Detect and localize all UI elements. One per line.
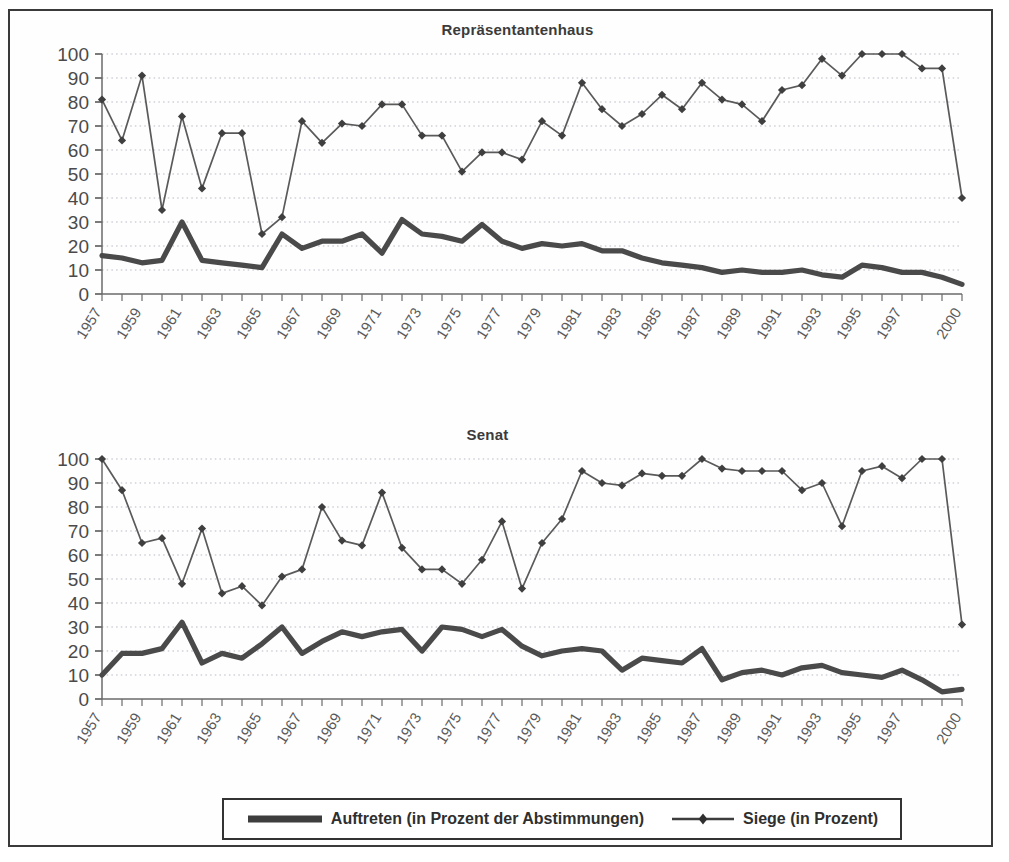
- x-axis-tick-label: 1991: [752, 710, 784, 747]
- x-axis-tick-label: 1967: [272, 710, 304, 747]
- x-axis-tick-label: 1989: [712, 710, 744, 747]
- x-axis-tick-label: 1965: [232, 710, 264, 747]
- legend-thick-line-icon: [246, 812, 324, 826]
- series-line-auftreten: [102, 220, 962, 285]
- chart-title-senate: Senat: [0, 426, 995, 443]
- y-axis-tick-label: 100: [57, 449, 89, 470]
- x-axis-tick-label: 1973: [392, 305, 424, 342]
- series-marker-siege: [358, 541, 366, 549]
- chart-house: Repräsentantenhaus 010203040506070809010…: [10, 21, 995, 411]
- series-marker-siege: [338, 537, 346, 545]
- y-axis-tick-label: 70: [68, 521, 89, 542]
- x-axis-tick-label: 1973: [392, 710, 424, 747]
- series-marker-siege: [858, 467, 866, 475]
- x-axis-tick-label: 1965: [232, 305, 264, 342]
- series-marker-siege: [438, 132, 446, 140]
- x-axis-tick-label: 1975: [432, 710, 464, 747]
- series-marker-siege: [178, 112, 186, 120]
- series-marker-siege: [138, 539, 146, 547]
- y-axis-tick-label: 100: [57, 44, 89, 65]
- series-marker-siege: [238, 129, 246, 137]
- plot-svg-senate: 0102030405060708090100195719591961196319…: [10, 447, 995, 807]
- plot-area-house: 0102030405060708090100195719591961196319…: [10, 42, 995, 292]
- series-marker-siege: [778, 86, 786, 94]
- x-axis-tick-label: 1995: [832, 710, 864, 747]
- chart-title-house: Repräsentantenhaus: [40, 21, 995, 38]
- y-axis-tick-label: 0: [78, 689, 89, 710]
- series-marker-siege: [418, 132, 426, 140]
- series-marker-siege: [178, 580, 186, 588]
- x-axis-tick-label: 2000: [932, 710, 964, 747]
- x-axis-tick-label: 1997: [872, 710, 904, 747]
- legend-diamond-line-icon: [670, 812, 736, 826]
- series-marker-siege: [938, 455, 946, 463]
- y-axis-tick-label: 80: [68, 497, 89, 518]
- series-marker-siege: [718, 465, 726, 473]
- x-axis-tick-label: 1985: [632, 710, 664, 747]
- x-axis-tick-label: 1977: [472, 305, 504, 342]
- series-marker-siege: [958, 194, 966, 202]
- series-marker-siege: [498, 517, 506, 525]
- x-axis-tick-label: 1971: [352, 710, 384, 747]
- x-axis-tick-label: 1981: [552, 710, 584, 747]
- x-axis-tick-label: 1997: [872, 305, 904, 342]
- series-line-siege: [102, 459, 962, 625]
- series-marker-siege: [878, 462, 886, 470]
- y-axis-tick-label: 10: [68, 665, 89, 686]
- series-marker-siege: [578, 467, 586, 475]
- chart-legend: Auftreten (in Prozent der Abstimmungen) …: [222, 798, 902, 840]
- x-axis-tick-label: 1961: [152, 305, 184, 342]
- x-axis-tick-label: 1979: [512, 710, 544, 747]
- series-marker-siege: [518, 585, 526, 593]
- x-axis-tick-label: 1993: [792, 305, 824, 342]
- series-marker-siege: [518, 156, 526, 164]
- y-axis-tick-label: 0: [78, 284, 89, 305]
- x-axis-tick-label: 1983: [592, 710, 624, 747]
- series-marker-siege: [758, 467, 766, 475]
- series-marker-siege: [118, 486, 126, 494]
- series-marker-siege: [738, 467, 746, 475]
- series-marker-siege: [838, 522, 846, 530]
- chart-senate: Senat 0102030405060708090100195719591961…: [10, 426, 995, 756]
- y-axis-tick-label: 40: [68, 593, 89, 614]
- series-marker-siege: [818, 479, 826, 487]
- x-axis-tick-label: 1979: [512, 305, 544, 342]
- series-marker-siege: [198, 184, 206, 192]
- series-marker-siege: [938, 64, 946, 72]
- series-line-siege: [102, 54, 962, 234]
- y-axis-tick-label: 50: [68, 569, 89, 590]
- y-axis-tick-label: 80: [68, 92, 89, 113]
- x-axis-tick-label: 1963: [192, 710, 224, 747]
- series-marker-siege: [658, 472, 666, 480]
- legend-item-auftreten: Auftreten (in Prozent der Abstimmungen): [246, 810, 644, 828]
- series-marker-siege: [158, 206, 166, 214]
- x-axis-tick-label: 1981: [552, 305, 584, 342]
- legend-item-siege: Siege (in Prozent): [670, 810, 878, 828]
- y-axis-tick-label: 90: [68, 473, 89, 494]
- y-axis-tick-label: 60: [68, 140, 89, 161]
- series-marker-siege: [378, 489, 386, 497]
- plot-area-senate: 0102030405060708090100195719591961196319…: [10, 447, 995, 697]
- series-marker-siege: [598, 479, 606, 487]
- x-axis-tick-label: 1969: [312, 710, 344, 747]
- x-axis-tick-label: 1989: [712, 305, 744, 342]
- x-axis-tick-label: 1957: [72, 305, 104, 342]
- x-axis-tick-label: 1975: [432, 305, 464, 342]
- x-axis-tick-label: 1995: [832, 305, 864, 342]
- plot-svg-house: 0102030405060708090100195719591961196319…: [10, 42, 995, 402]
- x-axis-tick-label: 2000: [932, 305, 964, 342]
- y-axis-tick-label: 20: [68, 641, 89, 662]
- legend-label-siege: Siege (in Prozent): [743, 810, 878, 828]
- y-axis-tick-label: 60: [68, 545, 89, 566]
- x-axis-tick-label: 1971: [352, 305, 384, 342]
- y-axis-tick-label: 20: [68, 236, 89, 257]
- series-marker-siege: [118, 136, 126, 144]
- series-marker-siege: [218, 589, 226, 597]
- x-axis-tick-label: 1969: [312, 305, 344, 342]
- x-axis-tick-label: 1985: [632, 305, 664, 342]
- x-axis-tick-label: 1987: [672, 305, 704, 342]
- y-axis-tick-label: 40: [68, 188, 89, 209]
- series-marker-siege: [158, 534, 166, 542]
- series-marker-siege: [638, 469, 646, 477]
- series-marker-siege: [98, 455, 106, 463]
